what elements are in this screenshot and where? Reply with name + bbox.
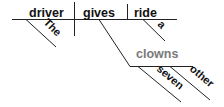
verb-word: gives (83, 6, 115, 20)
direct-object-word: ride (134, 6, 157, 20)
subject-word: driver (29, 6, 64, 20)
indirect-object-slant (99, 20, 130, 67)
sentence-diagram: driver gives ride The a clowns seven oth… (0, 0, 224, 107)
indirect-object-word: clowns (136, 47, 178, 61)
